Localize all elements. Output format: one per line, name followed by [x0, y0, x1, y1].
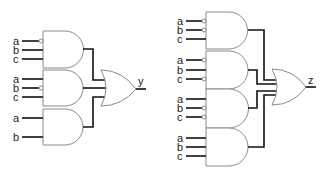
output-label-z: z: [308, 74, 314, 86]
circuit-z: a b c a b c a b c: [177, 12, 316, 166]
input-label-c: c: [177, 111, 183, 123]
inverter-bubble: [202, 19, 206, 23]
inverter-bubble: [202, 58, 206, 62]
inverter-bubble: [39, 86, 43, 90]
and-gate-3: a b: [13, 109, 83, 145]
circuit-y: a b c a b c a b: [13, 31, 146, 145]
inverter-bubble: [202, 28, 206, 32]
input-label-c: c: [13, 91, 19, 103]
input-label-c: c: [177, 150, 183, 162]
inverter-bubble: [202, 106, 206, 110]
inverter-bubble: [202, 77, 206, 81]
or-gate-y: y: [101, 70, 146, 106]
and-gate-1: a b c: [177, 12, 248, 49]
or-gate-z: z: [272, 69, 316, 105]
input-label-c: c: [177, 33, 183, 45]
input-label-b: b: [13, 131, 19, 143]
logic-diagram: a b c a b c a b: [0, 0, 332, 172]
and-gate-2: a b c: [13, 70, 83, 106]
input-label-a: a: [13, 112, 20, 124]
inverter-bubble: [39, 39, 43, 43]
output-label-y: y: [138, 75, 144, 87]
and-gate-1: a b c: [13, 31, 84, 68]
and-gate-2: a b c: [177, 51, 248, 89]
and-gate-3: a b c: [177, 89, 249, 128]
input-label-c: c: [177, 73, 183, 85]
inverter-bubble: [202, 115, 206, 119]
and-gate-4: a b c: [177, 128, 248, 166]
input-label-c: c: [13, 53, 19, 65]
